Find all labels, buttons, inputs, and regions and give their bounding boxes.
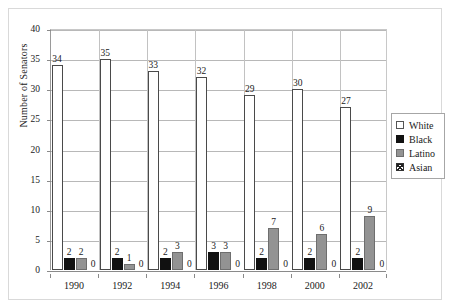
latino-swatch [396,149,404,157]
bar-white-1998 [244,95,255,270]
bar-latino-1996 [220,252,231,270]
bar-value-label: 29 [245,84,255,94]
x-tick-label: 1996 [209,280,229,292]
x-tick-mark [146,274,147,278]
bar-value-label: 30 [293,78,303,88]
x-tick-mark [291,274,292,278]
y-tick-mark [47,151,51,152]
y-tick-label: 10 [0,205,40,215]
bar-black-1992 [112,258,123,270]
bar-value-label: 2 [115,247,120,257]
y-tick-label: 5 [0,235,40,245]
bar-value-label: 27 [341,96,351,106]
bar-value-label: 0 [139,259,144,269]
bar-latino-1992 [124,264,135,270]
black-swatch [396,135,404,143]
y-tick-label: 30 [0,84,40,94]
bar-white-1996 [196,77,207,270]
bar-value-label: 2 [67,247,72,257]
y-tick-label: 35 [0,54,40,64]
y-axis-tick-labels: 0510152025303540 [0,29,46,270]
bar-value-label: 7 [271,217,276,227]
legend-item-label: Latino [409,148,435,159]
y-tick-mark [47,241,51,242]
bar-latino-1994 [172,252,183,270]
x-axis-tick-labels: 1990199219941996199820002002 [50,274,387,294]
x-tick-label: 2002 [353,280,373,292]
bar-value-label: 0 [187,259,192,269]
legend-item-label: Asian [409,162,432,173]
y-tick-mark [47,271,51,272]
x-tick-mark [386,274,387,278]
y-tick-mark [47,120,51,121]
legend-item-label: White [409,120,433,131]
senators-bar-chart: Number of Senators 0510152025303540 3422… [0,0,450,308]
y-tick-label: 25 [0,114,40,124]
bar-value-label: 2 [356,247,361,257]
white-swatch [396,121,404,129]
bar-value-label: 2 [79,247,84,257]
bar-black-1998 [256,258,267,270]
legend-item-white[interactable]: White [396,118,441,132]
bar-value-label: 2 [163,247,168,257]
bar-value-label: 32 [197,66,207,76]
legend: WhiteBlackLatinoAsian [391,113,445,179]
x-tick-mark [194,274,195,278]
bar-white-1992 [100,59,111,270]
gridline [51,271,386,272]
bar-latino-2000 [316,234,327,270]
bar-value-label: 35 [100,48,110,58]
bar-black-2002 [352,258,363,270]
bar-value-label: 9 [368,205,373,215]
y-tick-mark [47,90,51,91]
bar-value-label: 3 [175,241,180,251]
x-tick-mark [98,274,99,278]
x-tick-mark [243,274,244,278]
x-tick-label: 1990 [64,280,84,292]
bar-latino-1990 [76,258,87,270]
bar-white-1994 [148,71,159,270]
legend-item-latino[interactable]: Latino [396,146,441,160]
bar-black-1990 [64,258,75,270]
plot-area: 34220352103323032330292703026027290 [50,29,387,270]
bar-value-label: 1 [127,253,132,263]
bar-black-1994 [160,258,171,270]
y-tick-label: 40 [0,24,40,34]
bar-value-label: 2 [259,247,264,257]
y-tick-mark [47,211,51,212]
x-tick-label: 2000 [305,280,325,292]
bar-value-label: 0 [283,259,288,269]
bar-black-1996 [208,252,219,270]
y-tick-label: 0 [0,265,40,275]
gridline [51,30,386,31]
bar-value-label: 33 [149,60,159,70]
y-tick-mark [47,60,51,61]
bar-value-label: 0 [235,259,240,269]
bar-value-label: 0 [380,259,385,269]
bar-latino-2002 [364,216,375,270]
bar-value-label: 0 [331,259,336,269]
x-tick-label: 1998 [257,280,277,292]
bar-white-2002 [340,107,351,270]
bar-white-1990 [52,65,63,270]
bar-latino-1998 [268,228,279,270]
bar-value-label: 34 [52,54,62,64]
bar-value-label: 3 [223,241,228,251]
x-tick-mark [50,274,51,278]
bar-value-label: 2 [307,247,312,257]
x-tick-label: 1992 [112,280,132,292]
bar-value-label: 6 [319,223,324,233]
bar-value-label: 3 [211,241,216,251]
x-tick-label: 1994 [160,280,180,292]
legend-item-black[interactable]: Black [396,132,441,146]
y-tick-mark [47,30,51,31]
legend-item-asian[interactable]: Asian [396,160,441,174]
y-tick-mark [47,181,51,182]
asian-hatch-swatch [396,163,404,171]
y-tick-label: 15 [0,175,40,185]
bar-white-2000 [292,89,303,270]
bar-black-2000 [304,258,315,270]
plot-inner: 34220352103323032330292703026027290 [51,30,386,270]
bar-value-label: 0 [91,259,96,269]
x-tick-mark [339,274,340,278]
